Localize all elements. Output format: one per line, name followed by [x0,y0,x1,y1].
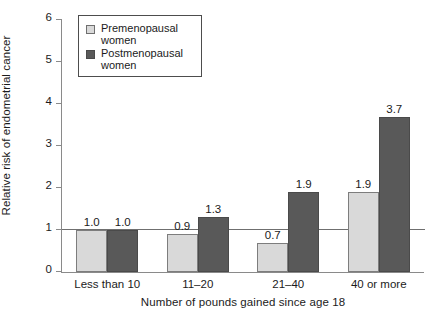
x-axis-group-label: Less than 10 [62,278,153,290]
bar: 1.0 [107,230,138,272]
x-axis-title: Number of pounds gained since age 18 [62,296,424,308]
y-axis-tick: 5 [56,61,62,62]
bar-value-label: 1.9 [355,178,371,190]
bar-value-label: 1.0 [115,216,131,228]
y-axis-tick-label: 5 [46,53,52,65]
x-axis-line [61,272,424,273]
legend-item-premenopausal: Premenopausal women [86,23,193,46]
bar: 1.0 [76,230,107,272]
y-axis-tick-label: 4 [46,95,52,107]
y-axis-tick: 0 [56,271,62,272]
legend-label-postmenopausal: Postmenopausal women [101,48,193,71]
y-axis-tick: 4 [56,103,62,104]
y-axis-tick-label: 1 [46,221,52,233]
x-axis-group-label: 40 or more [334,278,425,290]
y-axis-tick: 6 [56,19,62,20]
y-axis-tick: 3 [56,145,62,146]
bar-value-label: 0.7 [265,229,281,241]
bar: 0.7 [257,243,288,272]
y-axis-tick-label: 2 [46,179,52,191]
bar: 0.9 [167,234,198,272]
legend-swatch-postmenopausal-icon [86,50,95,59]
legend: Premenopausal women Postmenopausal women [78,15,202,77]
y-axis-tick-label: 0 [46,263,52,275]
bar: 1.3 [198,217,229,272]
legend-swatch-premenopausal-icon [86,25,95,34]
bar-value-label: 1.3 [205,203,221,215]
y-axis-tick-label: 6 [46,11,52,23]
bar: 1.9 [348,192,379,272]
bar-value-label: 1.0 [84,216,100,228]
bar: 3.7 [379,117,410,272]
y-axis-tick: 2 [56,187,62,188]
legend-item-postmenopausal: Postmenopausal women [86,48,193,71]
legend-label-premenopausal: Premenopausal women [101,23,193,46]
bar-value-label: 0.9 [174,220,190,232]
x-axis-group-label: 11–20 [153,278,244,290]
y-axis-title: Relative risk of endometrial cancer [0,0,18,285]
x-axis-group-label: 21–40 [243,278,334,290]
bar: 1.9 [288,192,319,272]
y-axis-tick-label: 3 [46,137,52,149]
bar-value-label: 3.7 [386,103,402,115]
bar-value-label: 1.9 [296,178,312,190]
bar-chart: Relative risk of endometrial cancer Numb… [0,0,435,319]
